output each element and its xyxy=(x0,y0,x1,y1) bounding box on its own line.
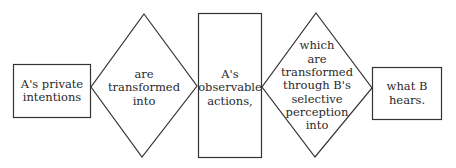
node-private-intentions-label: A's private intentions xyxy=(14,65,90,117)
node-transformed-into-label: are transformed into xyxy=(100,60,188,116)
node-selective-perception-label: which are transformed through B's select… xyxy=(270,36,364,136)
node-observable-actions-label: A's observable actions, xyxy=(199,60,261,116)
node-what-b-hears-label: what B hears. xyxy=(373,68,441,119)
